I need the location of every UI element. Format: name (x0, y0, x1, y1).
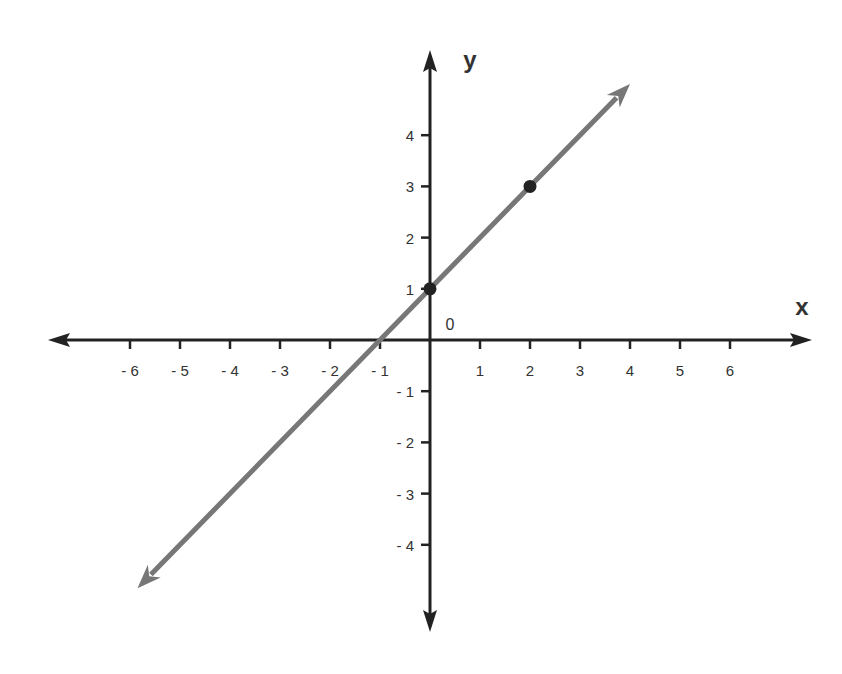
data-line-segment (151, 98, 617, 575)
x-tick-label: 5 (676, 362, 684, 379)
y-tick-label: - 4 (396, 537, 414, 554)
plot-svg: - 6- 5- 4- 3- 2- 11234564321- 1- 2- 3- 4… (0, 0, 842, 674)
y-axis-label: y (463, 46, 477, 73)
data-line (138, 84, 631, 588)
x-tick-label: - 6 (121, 362, 139, 379)
y-tick-label: 4 (406, 127, 414, 144)
y-tick-label: - 1 (396, 383, 414, 400)
x-tick-label: 6 (726, 362, 734, 379)
x-tick-label: - 4 (221, 362, 239, 379)
y-tick-label: - 2 (396, 434, 414, 451)
x-tick-label: - 2 (321, 362, 339, 379)
x-tick-label: - 3 (271, 362, 289, 379)
origin-label: 0 (446, 316, 455, 333)
x-tick-label: 1 (476, 362, 484, 379)
x-tick-label: 4 (626, 362, 634, 379)
y-tick-label: 1 (406, 281, 414, 298)
y-tick-label: 2 (406, 230, 414, 247)
x-tick-label: 3 (576, 362, 584, 379)
data-point (424, 282, 437, 295)
coordinate-plane: - 6- 5- 4- 3- 2- 11234564321- 1- 2- 3- 4… (0, 0, 842, 674)
data-point (524, 180, 537, 193)
x-axis-label: x (795, 293, 809, 320)
x-tick-label: - 1 (371, 362, 389, 379)
x-tick-label: 2 (526, 362, 534, 379)
y-tick-label: 3 (406, 178, 414, 195)
x-tick-label: - 5 (171, 362, 189, 379)
y-tick-label: - 3 (396, 486, 414, 503)
